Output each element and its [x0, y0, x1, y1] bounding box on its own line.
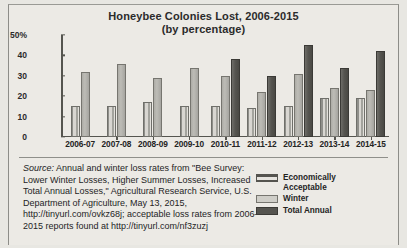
- figure-frame: Honeybee Colonies Lost, 2006-2015 (by pe…: [8, 4, 399, 245]
- bar-group: [280, 35, 316, 137]
- y-tick-label: 50%: [10, 30, 31, 40]
- chart-title-line1: Honeybee Colonies Lost, 2006-2015: [108, 10, 298, 22]
- chart-legend: EconomicallyAcceptableWinterTotal Annual: [256, 173, 388, 217]
- bar-acceptable: [284, 106, 293, 137]
- source-caption: Source: Annual and winter loss rates fro…: [23, 163, 261, 233]
- bar-winter: [221, 76, 230, 137]
- y-tick-label: 0: [22, 132, 31, 142]
- legend-item: Winter: [256, 194, 388, 204]
- bar-total: [340, 68, 349, 137]
- y-tick-label: 20: [18, 91, 31, 101]
- x-tick-label: 2009-10: [171, 139, 207, 153]
- legend-item: EconomicallyAcceptable: [256, 173, 388, 192]
- bar-winter: [366, 90, 375, 137]
- source-text: Annual and winter loss rates from "Bee S…: [23, 163, 260, 231]
- bar-acceptable: [211, 106, 220, 137]
- y-tick-label: 40: [18, 50, 31, 60]
- x-tick-label: 2010-11: [207, 139, 243, 153]
- bar-groups: [62, 35, 389, 137]
- x-axis-labels: 2006-072007-082008-092009-102010-112011-…: [62, 139, 389, 153]
- legend-label: Winter: [283, 194, 308, 204]
- bar-acceptable: [356, 98, 365, 137]
- bar-winter: [153, 78, 162, 137]
- bar-winter: [257, 92, 266, 137]
- legend-item: Total Annual: [256, 206, 388, 216]
- bar-group: [171, 35, 207, 137]
- bar-winter: [81, 72, 90, 137]
- bar-total: [304, 45, 313, 137]
- legend-swatch-total: [256, 207, 278, 215]
- x-tick-label: 2014-15: [353, 139, 389, 153]
- legend-swatch-acceptable: [256, 174, 278, 182]
- legend-label: Total Annual: [283, 206, 332, 216]
- bar-group: [316, 35, 352, 137]
- y-tick-label: 10: [18, 112, 31, 122]
- bar-acceptable: [143, 102, 152, 137]
- y-tick-label: 30: [18, 71, 31, 81]
- legend-swatch-winter: [256, 195, 278, 203]
- bar-group: [62, 35, 98, 137]
- chart-area: 50%403020100 2006-072007-082008-092009-1…: [31, 35, 393, 153]
- bar-winter: [117, 64, 126, 137]
- bar-group: [244, 35, 280, 137]
- bar-total: [231, 59, 240, 137]
- bar-acceptable: [180, 106, 189, 137]
- x-tick-label: 2006-07: [62, 139, 98, 153]
- bar-group: [135, 35, 171, 137]
- bar-winter: [330, 88, 339, 137]
- bar-acceptable: [107, 106, 116, 137]
- x-tick-label: 2013-14: [316, 139, 352, 153]
- source-label: Source:: [23, 163, 54, 173]
- legend-label: EconomicallyAcceptable: [283, 173, 336, 192]
- x-tick-label: 2011-12: [244, 139, 280, 153]
- x-tick-label: 2007-08: [98, 139, 134, 153]
- bar-winter: [294, 74, 303, 137]
- bar-total: [267, 76, 276, 137]
- bar-group: [98, 35, 134, 137]
- bar-acceptable: [320, 98, 329, 137]
- bar-total: [376, 51, 385, 137]
- chart-title: Honeybee Colonies Lost, 2006-2015 (by pe…: [9, 10, 398, 36]
- x-tick-label: 2012-13: [280, 139, 316, 153]
- bar-acceptable: [71, 106, 80, 137]
- bar-winter: [190, 68, 199, 137]
- x-tick-label: 2008-09: [135, 139, 171, 153]
- bar-acceptable: [247, 108, 256, 137]
- figure-page: Honeybee Colonies Lost, 2006-2015 (by pe…: [0, 0, 407, 248]
- caption-divider: [19, 157, 388, 158]
- bar-group: [353, 35, 389, 137]
- bar-group: [207, 35, 243, 137]
